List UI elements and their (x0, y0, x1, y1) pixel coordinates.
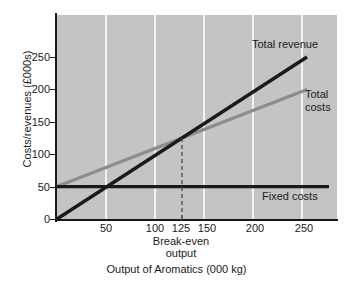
x-tick-label-50: 50 (86, 222, 126, 234)
x-tick-mark-125 (181, 215, 182, 220)
y-tick-label-0: 0 (18, 214, 50, 225)
x-axis-line (55, 219, 338, 221)
y-tick-0: 0 (12, 214, 50, 225)
y-tick-mark-200 (50, 89, 56, 90)
x-tick-label-200: 200 (235, 222, 275, 234)
series-label-total-revenue: Total revenue (252, 38, 318, 51)
y-tick-mark-150 (50, 122, 56, 123)
break-even-annotation: Break-even output (140, 235, 222, 259)
x-tick-label-250: 250 (284, 222, 324, 234)
series-label-total-costs: Total costs (305, 88, 331, 113)
y-tick-mark-100 (50, 154, 56, 155)
gridline-x-50 (105, 15, 107, 220)
series-label-fixed-costs: Fixed costs (262, 190, 318, 203)
gridline-x-100 (154, 15, 156, 220)
series-label-total-costs-line1: Total (305, 88, 331, 101)
gridline-x-150 (203, 15, 205, 220)
break-even-label-line2: output (140, 247, 222, 259)
y-tick-mark-250 (50, 57, 56, 58)
y-axis-title: Costs/revenues (£000s) (21, 29, 33, 189)
y-tick-mark-0 (50, 219, 56, 220)
x-tick-label-150: 150 (187, 222, 227, 234)
x-axis-title: Output of Aromatics (000 kg) (0, 263, 353, 275)
y-axis-line (55, 13, 57, 222)
series-label-total-costs-line2: costs (305, 101, 331, 114)
y-tick-mark-50 (50, 187, 56, 188)
break-even-label-line1: Break-even (140, 235, 222, 247)
break-even-chart: 250 200 150 100 50 0 50 100 125 150 200 … (0, 0, 353, 283)
